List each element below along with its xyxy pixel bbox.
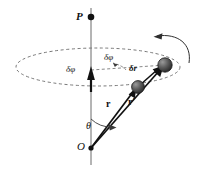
angular-displacement-arrowhead — [87, 66, 95, 80]
label-delta-r: δr — [129, 64, 137, 73]
sense-of-rotation-arrowhead — [154, 33, 163, 39]
vector-r-prime-shaft — [91, 71, 159, 148]
label-vector-r-prime: r′ — [128, 97, 135, 107]
particle-sphere-final — [158, 58, 172, 72]
particle-sphere-initial — [132, 81, 145, 94]
label-origin: O — [77, 141, 85, 152]
circle-of-rotation — [16, 48, 180, 86]
pole-point-dot — [88, 14, 95, 21]
label-delta-phi-axis: δφ — [66, 65, 75, 74]
theta-angle-arrowhead — [109, 124, 117, 130]
origin-point-dot — [88, 145, 93, 150]
figure-canvas — [0, 0, 197, 171]
label-delta-phi-arc: δφ — [104, 53, 113, 62]
delta-phi-arc-arrowhead — [113, 63, 118, 67]
label-vector-r: r — [106, 99, 110, 109]
physics-rotation-figure: P O θ δφ δφ δr r r′ — [0, 0, 197, 171]
label-polar-angle: θ — [86, 121, 91, 131]
label-pole-point: P — [76, 11, 83, 22]
